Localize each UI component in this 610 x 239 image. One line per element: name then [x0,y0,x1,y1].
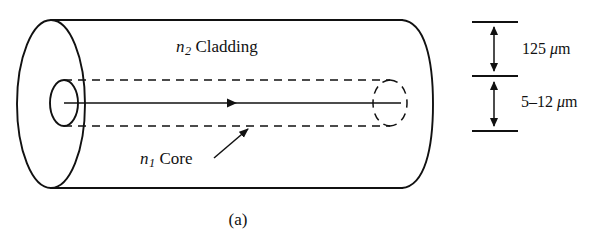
core-leader-arrow [214,129,248,158]
figure-optical-fiber: n2 Cladding n1 Core 125 μm 5–12 μm (a) [0,0,610,239]
core-leader-line [214,129,248,158]
label-core: n1 Core [140,150,192,170]
cladding-face-ellipse [17,20,85,188]
label-dimension-inner: 5–12 μm [521,94,577,110]
dimension-outer-unit-m: m [558,40,570,57]
label-dimension-outer: 125 μm [522,41,570,57]
fiber-drawing [0,0,610,239]
core-symbol: n [140,149,149,168]
dimension-outer-unit-mu: μ [550,40,558,57]
core-text: Core [159,149,192,168]
dimension-scale [472,22,518,131]
figure-caption: (a) [0,210,476,230]
cladding-symbol: n [176,37,185,56]
dimension-inner-value: 5–12 [521,93,553,110]
dimension-inner-unit-mu: μ [557,93,565,110]
dimension-inner-unit-m: m [565,93,577,110]
label-cladding: n2 Cladding [176,38,258,58]
dimension-outer-value: 125 [522,40,546,57]
cladding-text: Cladding [195,37,257,56]
